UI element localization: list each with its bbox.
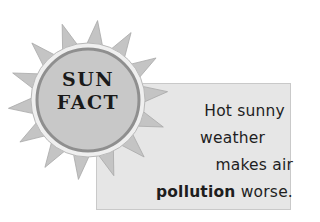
badge-line-1: SUN <box>44 68 132 91</box>
sun-fact-badge: SUN FACT <box>44 68 132 114</box>
fact-line-2: weather <box>133 125 293 152</box>
fact-text: Hot sunny weather makes air pollution wo… <box>133 98 293 206</box>
fact-line-1: Hot sunny <box>133 98 293 125</box>
fact-keyword: pollution <box>156 183 236 201</box>
badge-line-2: FACT <box>44 91 132 114</box>
fact-line-3: makes air <box>133 152 293 179</box>
fact-line-4-rest: worse. <box>236 183 293 201</box>
fact-line-4: pollution worse. <box>133 179 293 206</box>
